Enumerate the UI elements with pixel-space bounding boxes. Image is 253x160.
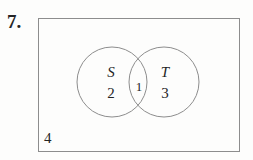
outside-sets-count: 4 bbox=[44, 131, 60, 146]
set-s-label: S bbox=[101, 65, 121, 80]
intersection-count: 1 bbox=[131, 80, 147, 93]
problem-number-label: 7. bbox=[7, 11, 21, 33]
set-t-label: T bbox=[155, 65, 175, 80]
venn-diagram-figure: 7. S 2 T 3 1 4 bbox=[0, 0, 253, 160]
set-s-only-count: 2 bbox=[101, 86, 121, 101]
set-t-only-count: 3 bbox=[155, 86, 175, 101]
